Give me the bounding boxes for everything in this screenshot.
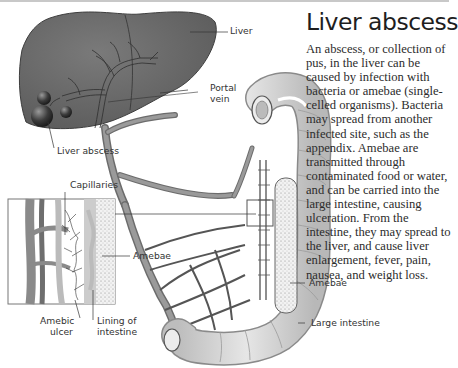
label-amebae-colon: Amebae	[309, 278, 347, 289]
label-lining-line2: intestine	[97, 327, 137, 338]
label-liver-abscess: Liver abscess	[57, 146, 119, 157]
label-amebic-ulcer-line2: ulcer	[50, 327, 73, 338]
label-large-intestine: Large intestine	[311, 318, 380, 329]
mesenteric-veins	[145, 225, 250, 330]
description-text: An abscess, or collection of pus, in the…	[306, 42, 451, 282]
portal-vein	[105, 115, 252, 345]
label-amebic-ulcer-line1: Amebic	[40, 316, 74, 327]
label-portal-vein-line1: Portal	[210, 83, 236, 94]
page-title: Liver abscess	[306, 8, 458, 36]
inset-magnified-view	[8, 199, 115, 304]
label-capillaries: Capillaries	[70, 180, 118, 191]
label-lining-line1: Lining of	[97, 316, 136, 327]
label-portal-vein-line2: vein	[210, 94, 229, 105]
label-liver: Liver	[230, 26, 253, 37]
liver	[19, 12, 216, 129]
label-amebae-inset: Amebae	[133, 251, 171, 262]
